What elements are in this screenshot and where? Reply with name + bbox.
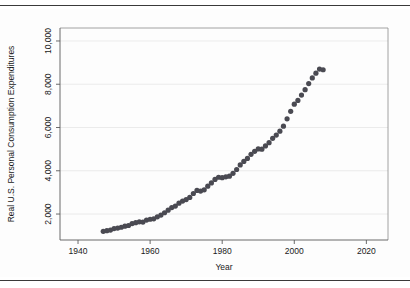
y-tick-label: 4,000 — [43, 160, 53, 182]
data-point — [299, 92, 304, 97]
data-point — [284, 116, 289, 121]
figure-page: 2,0004,0006,0008,00010,000 1940196019802… — [0, 0, 410, 288]
y-tick-label: 10,000 — [43, 28, 53, 54]
y-tick-label: 8,000 — [43, 73, 53, 95]
data-point — [187, 195, 192, 200]
x-tick-label: 2020 — [357, 246, 376, 256]
data-point — [313, 71, 318, 76]
page-rule-bottom — [0, 280, 410, 281]
data-point — [310, 75, 315, 80]
grid-lines — [60, 41, 388, 214]
x-tick-label: 1940 — [69, 246, 88, 256]
y-tick-label: 6,000 — [43, 117, 53, 139]
scatter-chart: 2,0004,0006,0008,00010,000 1940196019802… — [0, 9, 410, 277]
figure-surface: 2,0004,0006,0008,00010,000 1940196019802… — [0, 9, 410, 277]
data-point — [230, 171, 235, 176]
y-tick-label: 2,000 — [43, 203, 53, 225]
x-tick-marks — [78, 240, 366, 244]
data-point — [321, 67, 326, 72]
data-point — [288, 109, 293, 114]
page-rule-top — [0, 5, 410, 6]
data-point — [234, 167, 239, 172]
x-tick-label: 1960 — [141, 246, 160, 256]
data-point — [295, 98, 300, 103]
data-points — [101, 67, 326, 234]
y-tick-labels: 2,0004,0006,0008,00010,000 — [43, 28, 53, 225]
x-axis-title: Year — [215, 262, 232, 272]
data-point — [303, 87, 308, 92]
data-point — [281, 124, 286, 129]
data-point — [277, 129, 282, 134]
data-point — [245, 156, 250, 161]
y-tick-marks — [56, 41, 60, 214]
x-tick-label: 2000 — [285, 246, 304, 256]
data-point — [274, 132, 279, 137]
y-axis-title: Real U.S. Personal Consumption Expenditu… — [6, 46, 16, 223]
data-point — [266, 140, 271, 145]
data-point — [306, 81, 311, 86]
chart-canvas: 2,0004,0006,0008,00010,000 1940196019802… — [0, 9, 410, 277]
x-tick-label: 1980 — [213, 246, 232, 256]
plot-frame — [60, 28, 388, 240]
x-tick-labels: 19401960198020002020 — [69, 246, 377, 256]
